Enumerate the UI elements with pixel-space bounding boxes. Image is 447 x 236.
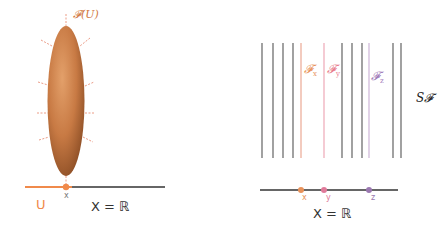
stalks (262, 43, 401, 158)
sheaf-diagram (0, 0, 447, 236)
section-label: 𝓕(U) (73, 8, 99, 21)
point-x-dot (63, 184, 69, 190)
right-space-label: X = ℝ (313, 206, 351, 221)
stalk-fz-sub: z (380, 77, 384, 85)
point-z-label: z (371, 193, 375, 202)
stalk-fy-sub: y (336, 70, 340, 78)
stalk-label-y: 𝓕y (327, 62, 340, 78)
stalk-fx-sub: x (313, 70, 317, 78)
etale-space-label: S𝓕 (416, 91, 433, 105)
stalk-fx-symbol: 𝓕 (304, 62, 313, 76)
point-x-label: x (64, 191, 69, 200)
point-y-label: y (326, 193, 331, 202)
stalk-fy-symbol: 𝓕 (327, 62, 336, 76)
stalk-label-x: 𝓕x (304, 62, 317, 78)
stalk-label-z: 𝓕z (371, 69, 384, 85)
stalk-fz-symbol: 𝓕 (371, 69, 380, 83)
section-blob (48, 26, 85, 176)
left-space-label: X = ℝ (91, 199, 129, 214)
open-set-label: U (36, 197, 46, 212)
point-x-label-right: x (302, 193, 307, 202)
